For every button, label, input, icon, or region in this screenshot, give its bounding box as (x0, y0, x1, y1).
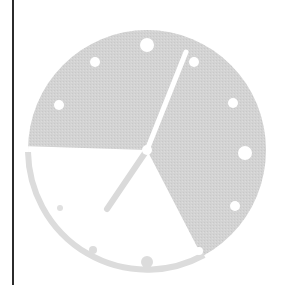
hour-marker-1 (189, 57, 199, 67)
hour-marker-5 (195, 247, 203, 255)
hour-marker-7 (89, 246, 97, 254)
center-hub (142, 145, 152, 155)
hour-marker-4 (230, 201, 240, 211)
hour-marker-11 (90, 57, 100, 67)
clock-graphic (0, 0, 286, 289)
hour-marker-6 (141, 256, 153, 268)
clock-figure: Clock illustration Stylized analog clock… (0, 0, 286, 289)
hour-marker-9 (45, 149, 57, 161)
hour-marker-12 (140, 38, 154, 52)
hour-marker-3 (238, 146, 252, 160)
hour-marker-8 (57, 205, 63, 211)
hour-marker-2 (228, 98, 238, 108)
hour-marker-10 (54, 100, 64, 110)
